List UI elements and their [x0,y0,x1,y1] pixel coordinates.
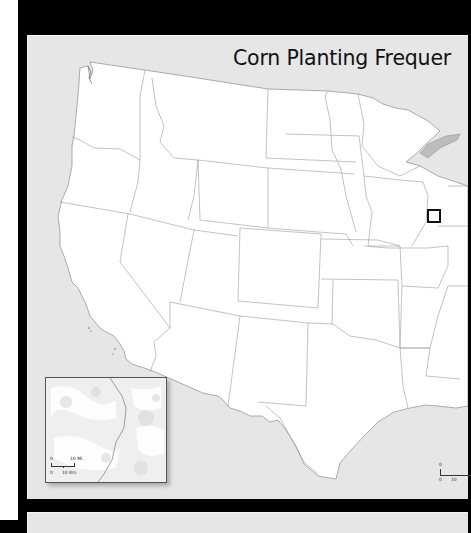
main-scale-bottom-label: 10 [451,477,457,482]
locator-box [427,209,441,223]
window-edge [0,0,18,520]
inset-scale-bottom-label: 10 Km [62,470,77,475]
next-map-panel [27,512,468,533]
inset-scale-tick [63,466,64,468]
main-scale-bottom-zero: 0 [439,477,442,482]
inset-scale-bottom-zero: 0 [50,470,53,475]
main-scale-bar [440,469,471,476]
map-panel: Corn Planting Frequer [27,35,468,499]
inset-scale-top-zero: 0 [50,456,53,461]
inset-scale-top-label: 10 Mi. [70,456,84,461]
inset-map: 0 10 Mi. 0 10 Km [45,377,167,483]
main-scale-top-zero: 0 [439,462,442,467]
